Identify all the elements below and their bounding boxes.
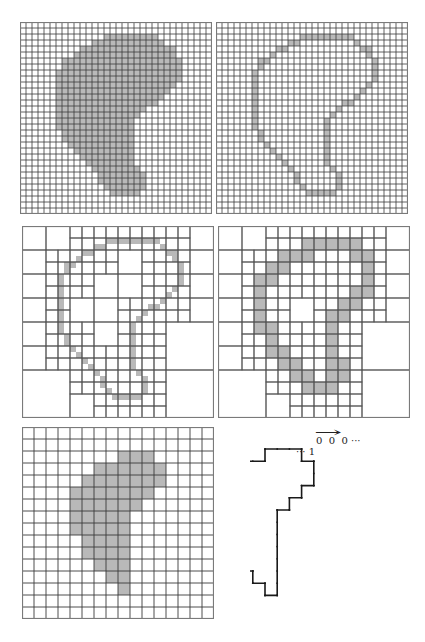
- panel-quadtree-coarse-boundary: [218, 226, 410, 418]
- panel-fine-grid-boundary: [216, 22, 408, 214]
- fine-grid-filled-svg: [20, 22, 212, 214]
- chain-code-zeros: 0 0 0 ···: [316, 435, 361, 446]
- chain-code-contour-svg: [250, 430, 425, 605]
- chain-code-one: ··· 1: [296, 446, 315, 457]
- panel-coarse-grid-filled: [22, 427, 214, 619]
- quadtree-fine-boundary-svg: [22, 226, 214, 418]
- coarse-grid-filled-svg: [22, 427, 214, 619]
- quadtree-coarse-boundary-svg: [218, 226, 410, 418]
- panel-chain-code-contour: [250, 430, 425, 605]
- fine-grid-boundary-svg: [216, 22, 408, 214]
- panel-quadtree-fine-boundary: [22, 226, 214, 418]
- panel-fine-grid-filled: [20, 22, 212, 214]
